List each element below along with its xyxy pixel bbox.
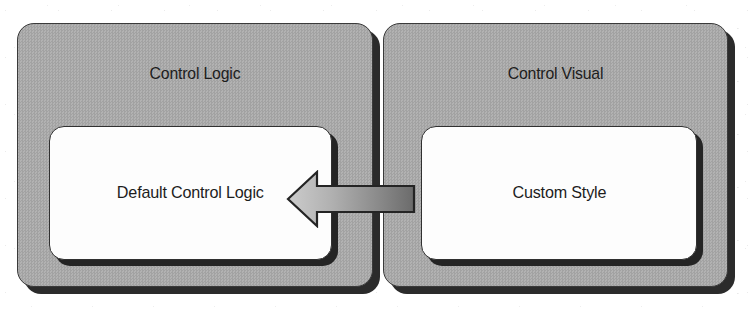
panel-control-visual-title: Control Visual [396,64,715,84]
diagram-canvas: Control Logic Default Control Logic Cont… [0,0,750,310]
box-custom-style[interactable]: Custom Style [421,126,697,260]
panel-control-logic[interactable]: Control Logic Default Control Logic [17,23,373,287]
box-default-control-logic[interactable]: Default Control Logic [49,126,332,260]
panel-control-logic-title: Control Logic [30,64,359,84]
box-custom-style-label: Custom Style [512,183,606,203]
panel-control-visual[interactable]: Control Visual Custom Style [383,23,728,287]
box-default-control-logic-label: Default Control Logic [117,183,264,203]
